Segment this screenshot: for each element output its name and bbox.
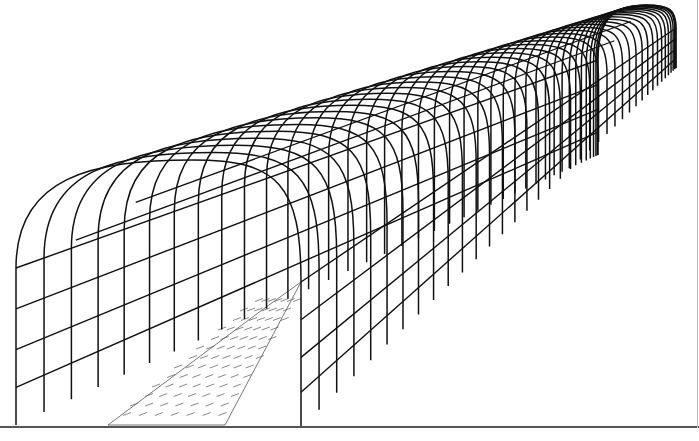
bottom-border-rule: [0, 426, 699, 428]
longitudinal-rails: [16, 22, 676, 393]
arch-frames: [16, 5, 676, 427]
tunnel-trellis-illustration: [0, 0, 699, 441]
right-border-rule: [697, 0, 698, 428]
paved-path: [108, 282, 301, 425]
